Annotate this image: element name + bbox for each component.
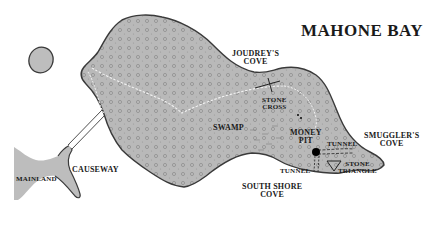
causeway-road bbox=[70, 112, 104, 147]
label-joudreys-cove: JOUDREY'S COVE bbox=[232, 50, 279, 67]
label-stone-triangle: STONE TRIANGLE bbox=[338, 161, 377, 176]
label-mainland: MAINLAND bbox=[16, 176, 57, 183]
label-line: COVE bbox=[232, 58, 279, 66]
label-line: COVE bbox=[364, 140, 419, 148]
label-stone-cross: STONE CROSS bbox=[262, 97, 287, 112]
label-swamp: SWAMP bbox=[213, 124, 244, 132]
label-money-pit: MONEY PIT bbox=[290, 129, 322, 146]
label-line: CROSS bbox=[262, 104, 287, 111]
bay-title: MAHONE BAY bbox=[301, 22, 423, 40]
islet bbox=[25, 44, 56, 77]
label-line: TRIANGLE bbox=[338, 168, 377, 175]
label-line: PIT bbox=[290, 137, 322, 145]
label-smugglers-cove: SMUGGLER'S COVE bbox=[364, 132, 419, 149]
label-tunnel-south: TUNNEL bbox=[280, 168, 310, 175]
oak-island-map: MAHONE BAY JOUDREY'S COVE STONE CROSS SW… bbox=[0, 0, 443, 225]
label-tunnel-east: TUNNEL bbox=[327, 141, 357, 148]
label-causeway: CAUSEWAY bbox=[72, 166, 119, 174]
label-south-shore-cove: SOUTH SHORE COVE bbox=[242, 183, 302, 200]
money-pit-marker bbox=[312, 148, 320, 156]
label-line: COVE bbox=[242, 191, 302, 199]
